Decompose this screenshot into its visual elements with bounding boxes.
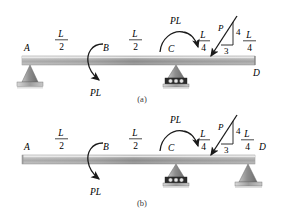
slope-rise-b: 4	[236, 126, 241, 136]
dimension-b-1: L 2	[55, 128, 68, 151]
point-label-a-C: C	[168, 44, 175, 54]
force-label-a-P: P	[217, 23, 224, 33]
dim-numerator: L	[57, 128, 63, 138]
dim-denominator: 4	[247, 43, 252, 53]
slope-run-a: 3	[224, 46, 229, 56]
dim-denominator: 4	[201, 142, 206, 152]
slope-rise-a: 4	[236, 27, 241, 37]
point-label-a-A: A	[23, 43, 30, 53]
caption-b: (b)	[137, 198, 147, 208]
dim-numerator: L	[245, 30, 251, 40]
dim-numerator: L	[199, 30, 205, 40]
dimension-b-3: L 4	[197, 129, 210, 152]
dim-denominator: 4	[201, 43, 206, 53]
diagram-b: A B C D L 2 L 2 L 4 L 4	[22, 115, 266, 208]
point-label-b-D: D	[258, 142, 266, 152]
moment-label-a-B: PL	[89, 88, 101, 98]
slope-run-b: 3	[224, 145, 229, 155]
dimension-a-3: L 4	[197, 30, 210, 53]
dim-denominator: 4	[245, 142, 250, 152]
dimension-a-4: L 4	[243, 30, 256, 53]
beam-b	[22, 155, 255, 164]
caption-a: (a)	[137, 94, 147, 104]
dim-numerator: L	[57, 29, 63, 39]
dim-denominator: 2	[59, 141, 64, 151]
moment-label-a-C: PL	[169, 16, 181, 26]
force-load-a-P: P 4 3	[211, 16, 241, 56]
moment-label-b-B: PL	[89, 187, 101, 197]
dim-numerator: L	[131, 29, 137, 39]
figure-canvas: A B C D L 2 L 2 L 4 L 4	[0, 0, 284, 214]
point-label-a-D: D	[252, 68, 260, 78]
point-label-b-B: B	[103, 142, 109, 152]
dimension-a-1: L 2	[55, 29, 68, 52]
point-label-b-C: C	[168, 143, 175, 153]
diagram-a: A B C D L 2 L 2 L 4 L 4	[17, 16, 260, 104]
moment-load-a-C: PL	[160, 16, 198, 52]
dim-denominator: 2	[59, 42, 64, 52]
support-pin-a-a	[17, 65, 43, 89]
dim-numerator: L	[131, 128, 137, 138]
dim-denominator: 2	[133, 42, 138, 52]
dimension-a-2: L 2	[129, 29, 142, 52]
force-load-b-P: P 4 3	[211, 115, 241, 155]
moment-load-a-B: PL	[88, 44, 103, 98]
dim-numerator: L	[199, 129, 205, 139]
point-label-b-A: A	[23, 142, 30, 152]
moment-load-b-C: PL	[160, 115, 198, 151]
beam-diagram-svg: A B C D L 2 L 2 L 4 L 4	[0, 0, 284, 214]
force-label-b-P: P	[217, 122, 224, 132]
point-label-a-B: B	[103, 43, 109, 53]
dimension-b-4: L 4	[241, 129, 254, 152]
support-pin-b-d	[235, 164, 262, 188]
dim-numerator: L	[243, 129, 249, 139]
beam-a	[22, 56, 256, 65]
support-roller-a-c	[163, 65, 189, 89]
support-roller-b-c	[163, 164, 189, 188]
moment-load-b-B: PL	[88, 143, 103, 197]
dim-denominator: 2	[133, 141, 138, 151]
moment-label-b-C: PL	[169, 115, 181, 125]
dimension-b-2: L 2	[129, 128, 142, 151]
